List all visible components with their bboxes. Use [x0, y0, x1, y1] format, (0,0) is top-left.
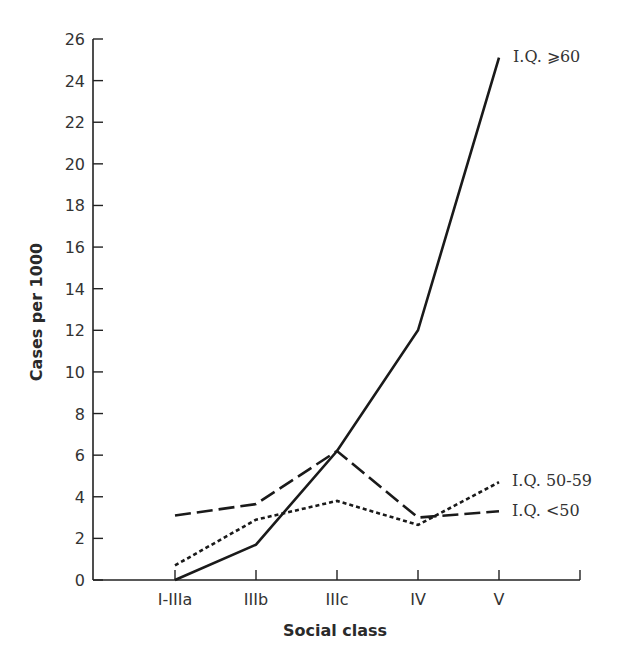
x-tick-label: IV [410, 590, 426, 609]
y-axis-title: Cases per 1000 [27, 243, 46, 381]
y-axis: 02468101214161820222426 [65, 30, 103, 590]
y-tick-label: 22 [65, 113, 85, 132]
y-tick-label: 0 [75, 571, 85, 590]
y-tick-label: 16 [65, 238, 85, 257]
y-tick-label: 18 [65, 196, 85, 215]
y-tick-label: 12 [65, 321, 85, 340]
x-tick-label: I-IIIa [158, 590, 192, 609]
x-axis-title: Social class [283, 621, 387, 640]
y-tick-label: 8 [75, 405, 85, 424]
x-tick-label: IIIc [326, 590, 349, 609]
series-lines [175, 58, 499, 580]
x-tick-label: IIIb [244, 590, 268, 609]
y-tick-label: 2 [75, 529, 85, 548]
x-axis: I-IIIaIIIbIIIcIVV [93, 570, 580, 609]
y-tick-label: 20 [65, 155, 85, 174]
y-tick-label: 4 [75, 488, 85, 507]
y-tick-label: 6 [75, 446, 85, 465]
series-label: I.Q. ⩾60 [513, 47, 580, 66]
y-tick-label: 10 [65, 363, 85, 382]
series-labels: I.Q. ⩾60I.Q. 50-59I.Q. <50 [512, 47, 592, 520]
x-tick-label: V [494, 590, 505, 609]
y-tick-label: 14 [65, 280, 85, 299]
series-label: I.Q. <50 [512, 501, 580, 520]
series-line-dotted [175, 482, 499, 565]
line-chart: 02468101214161820222426 I-IIIaIIIbIIIcIV… [0, 0, 636, 663]
series-label: I.Q. 50-59 [512, 471, 592, 490]
y-tick-label: 24 [65, 72, 85, 91]
y-tick-label: 26 [65, 30, 85, 49]
